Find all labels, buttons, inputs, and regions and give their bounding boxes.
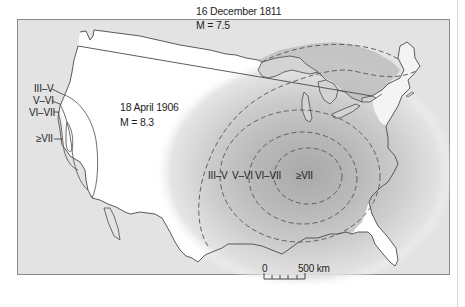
intensity-1811-V-VI: V–VI xyxy=(232,170,253,182)
event-1811-date: 16 December 1811 xyxy=(196,5,281,17)
event-1906-date: 18 April 1906 xyxy=(120,101,179,113)
intensity-1906-VI-VII: VI–VII xyxy=(29,107,55,119)
scale-start-label: 0 xyxy=(262,263,267,275)
intensity-1906-V-VI: V–VI xyxy=(33,95,54,107)
isoseismal-map xyxy=(0,0,465,307)
intensity-1811-VII: ≥VII xyxy=(296,170,313,182)
intensity-1811-III-V: III–V xyxy=(208,170,228,182)
intensity-1906-III-V: III–V xyxy=(34,83,54,95)
intensity-1906-VII: ≥VII xyxy=(36,133,53,145)
event-1811-magnitude: M = 7.5 xyxy=(196,19,230,31)
event-1906-magnitude: M = 8.3 xyxy=(120,116,154,128)
scale-end-label: 500 km xyxy=(298,263,330,275)
page-margin-rule xyxy=(457,0,458,307)
intensity-1811-VI-VII: VI–VII xyxy=(255,170,281,182)
